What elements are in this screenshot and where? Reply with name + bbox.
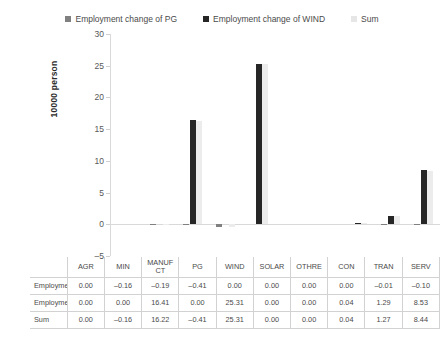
legend-item: Employment change of WIND <box>203 14 325 24</box>
bar-group <box>275 34 308 256</box>
bar-group <box>209 34 242 256</box>
chart-bar <box>229 224 235 227</box>
table-cell: 0.04 <box>328 294 365 311</box>
table-column-header: MIN <box>104 257 141 277</box>
legend-item: Sum <box>351 14 378 24</box>
y-axis-tick-label: 25 <box>95 61 104 71</box>
table-row-label: Sum <box>30 311 67 328</box>
y-axis-tick-label: 5 <box>99 188 104 198</box>
table-cell: 0.00 <box>291 311 328 328</box>
chart-data-table: AGRMINMANUF CTPGWINDSOLAROTHRECONTRANSER… <box>30 257 440 329</box>
table-cell: 8.44 <box>402 311 439 328</box>
chart-bar <box>361 223 367 224</box>
table-row: Employment change of WIND0.000.0016.410.… <box>30 294 440 311</box>
table-header-row: AGRMINMANUF CTPGWINDSOLAROTHRECONTRANSER… <box>30 257 440 277</box>
table-column-header: PG <box>179 257 216 277</box>
bar-group <box>374 34 407 256</box>
table-cell: 0.00 <box>253 294 290 311</box>
y-axis-tick-label: 20 <box>95 92 104 102</box>
chart-bar <box>421 170 427 224</box>
table-column-header: SERV <box>402 257 439 277</box>
table-cell: 0.00 <box>216 277 253 294</box>
chart-bar <box>394 216 400 224</box>
chart-bar <box>150 224 156 225</box>
table-row-label: Employment change of WIND <box>30 294 67 311</box>
plot-area <box>110 34 440 256</box>
table-cell: 1.29 <box>365 294 402 311</box>
chart-bar <box>388 216 394 224</box>
table-column-header: TRAN <box>365 257 402 277</box>
table-cell: –0.16 <box>104 277 141 294</box>
y-axis-title: 10000 person <box>49 29 59 149</box>
table-cell: 0.00 <box>67 294 104 311</box>
legend-swatch-icon <box>65 16 71 22</box>
chart-bar <box>414 224 420 225</box>
table-cell: 0.00 <box>179 294 216 311</box>
bar-group <box>341 34 374 256</box>
table-column-header: MANUF CT <box>142 257 179 277</box>
table-column-header: SOLAR <box>253 257 290 277</box>
chart-bar <box>196 121 202 224</box>
table-cell: –0.10 <box>402 277 439 294</box>
bar-group <box>308 34 341 256</box>
chart-bar <box>190 120 196 224</box>
table-cell: 0.00 <box>328 277 365 294</box>
table-column-header: WIND <box>216 257 253 277</box>
y-axis-tick-label: 30 <box>95 29 104 39</box>
table-cell: 0.00 <box>67 277 104 294</box>
y-axis-tick-label: 15 <box>95 124 104 134</box>
table-body: Employment change of PG0.00–0.16–0.19–0.… <box>30 277 440 328</box>
bar-group <box>110 34 143 256</box>
table-column-header: CON <box>328 257 365 277</box>
table-corner-cell <box>30 257 67 277</box>
table-cell: 1.27 <box>365 311 402 328</box>
table-cell: –0.16 <box>104 311 141 328</box>
chart-bar <box>381 224 387 225</box>
chart-bar <box>427 171 433 225</box>
table-cell: –0.41 <box>179 277 216 294</box>
table-cell: –0.41 <box>179 311 216 328</box>
table-row: Employment change of PG0.00–0.16–0.19–0.… <box>30 277 440 294</box>
bar-group <box>176 34 209 256</box>
chart-bar <box>256 64 262 225</box>
table-cell: 25.31 <box>216 294 253 311</box>
legend-label: Employment change of PG <box>75 14 177 24</box>
chart-bar <box>216 224 222 227</box>
table-cell: 0.00 <box>291 277 328 294</box>
table-row: Sum0.00–0.1616.22–0.4125.310.000.000.041… <box>30 311 440 328</box>
legend-swatch-icon <box>351 16 357 22</box>
bar-group <box>143 34 176 256</box>
table-cell: –0.01 <box>365 277 402 294</box>
bar-group <box>407 34 440 256</box>
bar-group <box>242 34 275 256</box>
y-axis-tick-label: 10 <box>95 156 104 166</box>
table-head: AGRMINMANUF CTPGWINDSOLAROTHRECONTRANSER… <box>30 257 440 277</box>
y-axis-tick-label: 0 <box>99 219 104 229</box>
table-cell: 16.41 <box>142 294 179 311</box>
chart-bar <box>183 224 189 225</box>
legend-swatch-icon <box>203 16 209 22</box>
legend-item: Employment change of PG <box>65 14 177 24</box>
table-row-label: Employment change of PG <box>30 277 67 294</box>
table-cell: 8.53 <box>402 294 439 311</box>
legend-label: Employment change of WIND <box>213 14 325 24</box>
table-column-header: OTHRE <box>291 257 328 277</box>
chart-bar <box>355 223 361 224</box>
table-cell: 0.00 <box>291 294 328 311</box>
table-cell: 0.00 <box>253 277 290 294</box>
y-axis-tick-labels: –5051015202530 <box>72 34 104 256</box>
table-cell: 0.00 <box>67 311 104 328</box>
legend-label: Sum <box>361 14 378 24</box>
chart-bar <box>262 64 268 225</box>
table-cell: 25.31 <box>216 311 253 328</box>
table-cell: 0.00 <box>104 294 141 311</box>
table-column-header: AGR <box>67 257 104 277</box>
chart-legend: Employment change of PGEmployment change… <box>0 14 444 24</box>
table-cell: 16.22 <box>142 311 179 328</box>
table-cell: 0.00 <box>253 311 290 328</box>
table-cell: –0.19 <box>142 277 179 294</box>
chart-bar <box>163 224 169 225</box>
table-cell: 0.04 <box>328 311 365 328</box>
